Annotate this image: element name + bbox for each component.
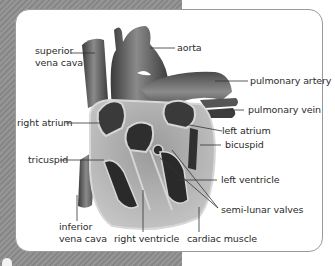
heart-illustration [0, 0, 335, 266]
label-semi-lunar-valves: semi-lunar valves [221, 204, 303, 216]
label-cardiac-muscle: cardiac muscle [187, 233, 257, 245]
label-right-atrium: right atrium [17, 117, 73, 129]
label-pulmonary-artery: pulmonary artery [250, 75, 331, 87]
label-aorta: aorta [177, 42, 202, 54]
label-superior-vena-cava-line1: superior [35, 45, 73, 57]
left-atrium [163, 101, 195, 128]
diagram-stage: superior vena cava aorta pulmonary arter… [0, 0, 335, 266]
label-bicuspid: bicuspid [225, 139, 264, 151]
label-pulmonary-vein: pulmonary vein [248, 104, 321, 116]
label-left-atrium: left atrium [222, 125, 271, 137]
label-superior-vena-cava-line2: vena cava [35, 57, 83, 69]
label-left-ventricle: left ventricle [221, 174, 279, 186]
label-inferior-vena-cava-line1: inferior [59, 221, 92, 233]
label-tricuspid: tricuspid [28, 154, 68, 166]
superior-vena-cava [82, 39, 108, 108]
label-inferior-vena-cava-line2: vena cava [59, 233, 107, 245]
label-right-ventricle: right ventricle [114, 233, 179, 245]
